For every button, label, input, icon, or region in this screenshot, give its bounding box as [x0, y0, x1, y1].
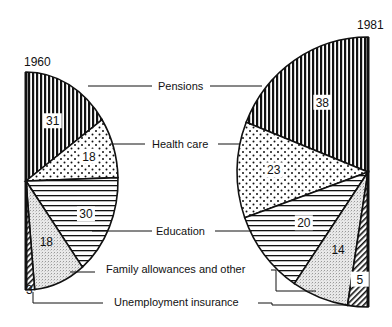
value-label: 18: [40, 235, 54, 249]
value-label: 38: [316, 96, 330, 110]
value-label: 23: [267, 163, 281, 177]
value-label: 18: [82, 150, 96, 164]
label-family-allowances: Family allowances and other: [106, 263, 246, 275]
pie-chart-comparison: 1960 1981 Pensions Health care Education…: [0, 0, 392, 327]
year-label-1981: 1981: [357, 18, 384, 32]
value-label: 20: [297, 216, 311, 230]
label-pensions: Pensions: [158, 80, 204, 92]
value-label: 30: [79, 207, 93, 221]
pie-1981: [237, 37, 368, 307]
label-education: Education: [156, 225, 205, 237]
value-label: 14: [331, 243, 345, 257]
year-label-1960: 1960: [24, 55, 51, 69]
value-label: 31: [46, 114, 60, 128]
label-health-care: Health care: [152, 138, 208, 150]
pie-1960: [26, 72, 118, 290]
value-label: 5: [356, 273, 363, 287]
value-unemployment-1960: 3: [26, 283, 33, 297]
label-unemployment-insurance: Unemployment insurance: [114, 296, 239, 308]
